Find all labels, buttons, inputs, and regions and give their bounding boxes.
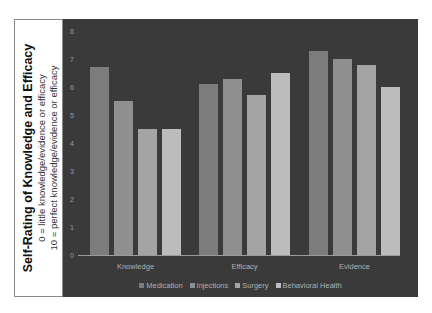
chart-title-box: Self-Rating of Knowledge and Efficacy 0 …: [14, 19, 63, 297]
bar-evidence-surgery: [357, 65, 376, 255]
y-tick-label: 6: [67, 84, 77, 91]
bar-efficacy-behavioral-health: [271, 73, 290, 255]
x-category-label: Efficacy: [231, 262, 257, 271]
y-tick-label: 3: [67, 168, 77, 175]
title-rotated: Self-Rating of Knowledge and Efficacy 0 …: [14, 19, 63, 297]
legend-swatch-icon: [190, 283, 195, 288]
y-tick-label: 8: [67, 28, 77, 35]
y-tick-label: 4: [67, 140, 77, 147]
legend-item: Surgery: [235, 281, 268, 290]
bar-evidence-injections: [333, 59, 352, 255]
legend-swatch-icon: [139, 283, 144, 288]
bar-efficacy-injections: [223, 79, 242, 255]
legend-label: Surgery: [242, 281, 268, 290]
y-tick-label: 7: [67, 56, 77, 63]
scale-note-low: 0 = little knowledge/evidence or efficac…: [35, 74, 47, 242]
bar-efficacy-medication: [199, 84, 218, 255]
bar-knowledge-injections: [114, 101, 133, 255]
x-category-label: Evidence: [339, 262, 370, 271]
bar-evidence-medication: [309, 51, 328, 255]
legend-swatch-icon: [235, 283, 240, 288]
legend-label: Injections: [197, 281, 229, 290]
y-tick-label: 1: [67, 224, 77, 231]
legend-item: Medication: [139, 281, 182, 290]
bar-evidence-behavioral-health: [381, 87, 400, 255]
bar-knowledge-surgery: [138, 129, 157, 255]
bar-efficacy-surgery: [247, 95, 266, 255]
y-tick-label: 5: [67, 112, 77, 119]
x-axis-line: [78, 255, 400, 256]
bar-chart-panel: 012345678 KnowledgeEfficacyEvidence Medi…: [63, 19, 418, 297]
legend: MedicationInjectionsSurgeryBehavioral He…: [63, 281, 418, 290]
legend-label: Behavioral Health: [283, 281, 342, 290]
bar-knowledge-medication: [90, 67, 109, 255]
y-tick-label: 0: [67, 252, 77, 259]
bar-knowledge-behavioral-health: [162, 129, 181, 255]
legend-label: Medication: [146, 281, 182, 290]
legend-item: Behavioral Health: [276, 281, 342, 290]
y-tick-label: 2: [67, 196, 77, 203]
x-category-label: Knowledge: [117, 262, 154, 271]
legend-swatch-icon: [276, 283, 281, 288]
legend-item: Injections: [190, 281, 229, 290]
chart-title: Self-Rating of Knowledge and Efficacy: [19, 44, 35, 273]
scale-note-high: 10 = perfect knowledge/evidence or effic…: [47, 66, 59, 251]
